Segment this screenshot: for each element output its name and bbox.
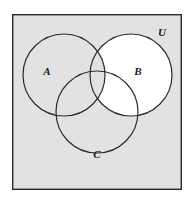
universe-label-u: U — [158, 26, 167, 38]
venn-diagram-canvas: A B C U — [0, 0, 193, 200]
set-label-b: B — [133, 65, 141, 77]
venn-diagram-figure: A B C U — [0, 0, 193, 200]
set-label-a: A — [42, 65, 50, 77]
set-label-c: C — [93, 148, 101, 160]
